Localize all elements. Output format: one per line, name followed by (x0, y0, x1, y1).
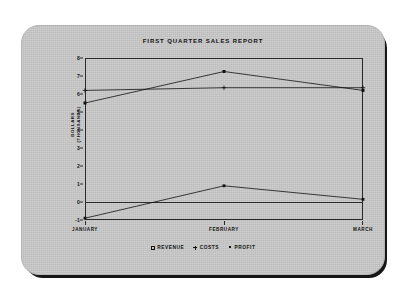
data-point-profit-0 (84, 217, 87, 220)
x-axis-tick-labels: JANUARYFEBRUARYMARCH (85, 222, 363, 234)
series-plot (85, 58, 363, 220)
legend-item-revenue: REVENUE (151, 245, 185, 250)
y-tick-mark (80, 220, 83, 221)
chart-card: FIRST QUARTER SALES REPORT DOLLARS (THOU… (21, 25, 385, 275)
legend-marker-glyph (151, 246, 156, 251)
data-point-costs-2 (361, 86, 365, 90)
legend-marker-dot-icon (228, 246, 232, 250)
legend-marker-plus-icon (193, 246, 197, 250)
data-point-costs-1 (222, 86, 226, 90)
data-point-costs-0 (83, 88, 87, 92)
x-tick-label: JANUARY (72, 227, 98, 232)
x-tick-mark (224, 221, 225, 225)
y-tick-mark (80, 202, 83, 203)
legend-label: COSTS (200, 245, 219, 250)
x-tick-label: MARCH (353, 227, 373, 232)
legend-item-costs: COSTS (193, 245, 219, 250)
y-tick-mark (80, 130, 83, 131)
data-point-revenue-1 (223, 70, 226, 73)
series-line-profit (85, 186, 363, 218)
x-tick-label: FEBRUARY (209, 227, 239, 232)
chart-legend: REVENUECOSTSPROFIT (22, 245, 384, 250)
y-tick-mark (80, 184, 83, 185)
legend-marker-glyph (229, 246, 232, 249)
y-tick-mark (80, 94, 83, 95)
data-point-profit-2 (362, 198, 365, 201)
y-axis-tick-labels: -1012345678 (22, 58, 83, 220)
y-tick-mark (80, 148, 83, 149)
y-tick-mark (80, 166, 83, 167)
legend-marker-glyph (193, 246, 197, 250)
chart-title: FIRST QUARTER SALES REPORT (22, 38, 384, 44)
y-tick-mark (80, 76, 83, 77)
x-tick-mark (362, 221, 363, 225)
page-background: FIRST QUARTER SALES REPORT DOLLARS (THOU… (0, 0, 405, 294)
legend-marker-square-icon (151, 246, 155, 250)
legend-label: REVENUE (157, 245, 184, 250)
y-tick-mark (80, 112, 83, 113)
legend-item-profit: PROFIT (228, 245, 255, 250)
y-tick-mark (80, 58, 83, 59)
data-point-profit-1 (223, 184, 226, 187)
data-point-revenue-0 (84, 102, 87, 105)
legend-label: PROFIT (234, 245, 255, 250)
x-tick-mark (85, 221, 86, 225)
